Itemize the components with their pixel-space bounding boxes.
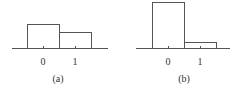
panel-a-plot xyxy=(12,25,108,49)
panel-b-plot xyxy=(136,3,230,49)
chart-canvas xyxy=(0,0,242,89)
panel-b-tick-label-0: 0 xyxy=(166,57,171,67)
panel-a-tick-label-0: 0 xyxy=(41,57,46,67)
panel-b-caption: (b) xyxy=(178,74,190,84)
panel-a-bar-0 xyxy=(28,25,60,49)
panel-a-tick-label-1: 1 xyxy=(73,57,78,67)
panel-a-caption: (a) xyxy=(52,74,63,84)
panel-b-tick-label-1: 1 xyxy=(198,57,203,67)
panel-b-bar-0 xyxy=(153,3,185,49)
